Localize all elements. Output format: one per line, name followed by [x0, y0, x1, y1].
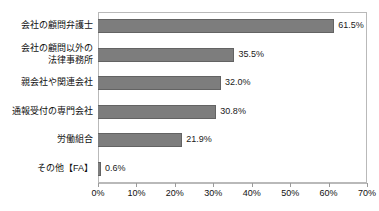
x-axis-tick — [98, 183, 99, 187]
bar-track — [98, 126, 367, 155]
x-axis-tick-label: 20% — [155, 188, 195, 198]
bar[interactable] — [98, 105, 216, 119]
x-axis-tick — [136, 183, 137, 187]
bar-value-label: 35.5% — [238, 47, 264, 62]
x-axis-tick-label: 60% — [309, 188, 349, 198]
x-axis-tick — [290, 183, 291, 187]
category-label: 通報受付の専門会社 — [0, 106, 93, 118]
bar-chart: 61.5%35.5%32.0%30.8%21.9%0.6% 会社の顧問弁護士会社… — [0, 0, 379, 211]
category-label: 親会社や関連会社 — [0, 77, 93, 89]
x-axis-tick — [367, 183, 368, 187]
category-label: 労働組合 — [0, 134, 93, 146]
x-axis-tick-label: 70% — [347, 188, 379, 198]
bar-value-label: 30.8% — [220, 104, 246, 119]
x-axis-tick — [213, 183, 214, 187]
bar-value-label: 61.5% — [338, 18, 364, 33]
x-axis-tick-label: 40% — [232, 188, 272, 198]
bar-value-label: 0.6% — [105, 161, 126, 176]
x-axis-tick — [252, 183, 253, 187]
bar[interactable] — [98, 19, 334, 33]
category-label: 会社の顧問弁護士 — [0, 20, 93, 32]
chart-title — [28, 0, 348, 2]
bar-track — [98, 12, 367, 41]
bar[interactable] — [98, 76, 221, 90]
x-axis-line — [98, 183, 367, 184]
bar-track — [98, 41, 367, 70]
x-axis-tick-label: 10% — [116, 188, 156, 198]
bar[interactable] — [98, 48, 234, 62]
bar[interactable] — [98, 133, 182, 147]
bar-track — [98, 155, 367, 184]
bar-value-label: 32.0% — [225, 75, 251, 90]
x-axis-tick-label: 50% — [270, 188, 310, 198]
x-axis-tick-label: 30% — [193, 188, 233, 198]
category-label: 会社の顧問以外の 法律事務所 — [0, 43, 93, 66]
bar[interactable] — [98, 162, 101, 176]
category-label: その他【FA】 — [0, 163, 93, 175]
x-axis-tick-label: 0% — [78, 188, 118, 198]
x-axis-tick — [175, 183, 176, 187]
bar-value-label: 21.9% — [186, 132, 212, 147]
x-axis-tick — [329, 183, 330, 187]
